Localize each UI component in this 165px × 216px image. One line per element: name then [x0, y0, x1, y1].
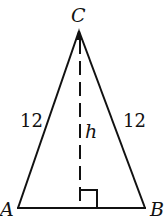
side-label-ac: 12 [20, 110, 43, 131]
triangle-diagram: C A B 12 12 h [0, 0, 165, 216]
vertex-label-b: B [149, 198, 164, 216]
vertex-label-c: C [71, 4, 86, 26]
vertex-label-a: A [0, 198, 14, 216]
side-label-bc: 12 [123, 110, 146, 131]
altitude-label-h: h [85, 120, 97, 142]
right-angle-marker [80, 190, 97, 208]
